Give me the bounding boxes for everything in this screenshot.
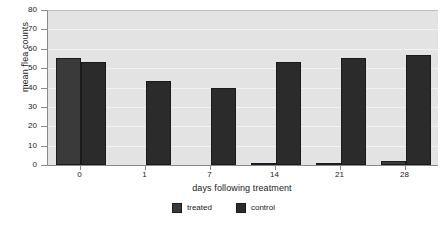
bar-control-day-28 (406, 55, 431, 165)
bar-treated-day-21 (316, 163, 341, 165)
legend-label-control: control (251, 204, 275, 212)
bar-control-day-14 (276, 62, 301, 165)
legend-swatch-treated (172, 203, 182, 213)
gridline (48, 88, 438, 89)
bar-control-day-7 (211, 88, 236, 166)
plot-area (47, 10, 438, 166)
x-axis-tick-label: 21 (320, 171, 360, 179)
bar-control-day-0 (81, 62, 106, 165)
bar-treated-day-28 (381, 161, 406, 165)
y-axis-tick-label: 20 (11, 122, 37, 130)
gridline (48, 107, 438, 108)
flea-counts-bar-chart: mean flea counts 01020304050607080 01714… (0, 0, 447, 225)
gridline (48, 49, 438, 50)
x-axis-tick-label: 7 (190, 171, 230, 179)
bar-treated-day-0 (56, 58, 81, 165)
x-axis-tick-label: 1 (125, 171, 165, 179)
y-axis-tick-label: 60 (11, 45, 37, 53)
y-axis-tick-label: 0 (11, 161, 37, 169)
bar-control-day-21 (341, 58, 366, 165)
y-axis-tick-label: 30 (11, 103, 37, 111)
legend-swatch-control (236, 203, 246, 213)
legend-item-treated[interactable]: treated (172, 203, 212, 213)
legend-label-treated: treated (187, 204, 212, 212)
bar-control-day-1 (146, 81, 171, 165)
y-axis-tick-label: 50 (11, 64, 37, 72)
gridline (48, 126, 438, 127)
gridline (48, 68, 438, 69)
legend-item-control[interactable]: control (236, 203, 275, 213)
plot-top-border (48, 10, 438, 11)
gridline (48, 146, 438, 147)
gridline (48, 29, 438, 30)
x-axis-tick-label: 0 (60, 171, 100, 179)
y-axis-tick-label: 10 (11, 142, 37, 150)
x-axis-tick-label: 14 (255, 171, 295, 179)
bar-treated-day-14 (251, 163, 276, 165)
x-axis-tick-label: 28 (385, 171, 425, 179)
chart-legend: treatedcontrol (0, 203, 447, 213)
y-axis-tick-label: 80 (11, 6, 37, 14)
y-axis-tick-label: 70 (11, 25, 37, 33)
x-axis-title: days following treatment (47, 183, 437, 193)
y-axis-tick-label: 40 (11, 84, 37, 92)
